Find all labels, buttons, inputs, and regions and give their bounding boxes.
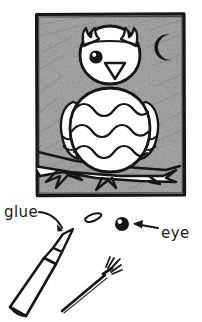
owl-body <box>70 88 150 172</box>
glue-arrow <box>39 212 63 232</box>
eye-label: eye <box>161 224 190 242</box>
craft-illustration: glue eye <box>0 0 202 322</box>
glue-bottle <box>10 229 73 316</box>
eye-arrow <box>133 220 158 229</box>
paintbrush <box>62 257 122 313</box>
paintbrush-handle <box>62 275 105 311</box>
glue-label: glue <box>4 203 38 221</box>
owl-left-eye <box>89 50 102 63</box>
owl-left-eye-highlight <box>92 53 96 57</box>
glue-drop <box>85 213 101 222</box>
glue-bottle-body <box>10 258 56 316</box>
googly-eye-bead <box>115 217 129 231</box>
owl-picture-frame <box>34 14 185 196</box>
